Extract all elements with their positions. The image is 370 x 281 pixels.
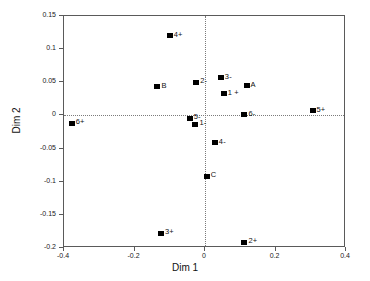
x-axis-tick-label: -0.4 (48, 252, 78, 260)
y-axis-title: Dim 2 (11, 61, 22, 181)
data-point-marker (218, 75, 224, 80)
data-point-marker (310, 108, 316, 113)
y-axis-tick-label: 0.15 (0, 11, 56, 19)
x-axis-tick-mark (134, 247, 135, 251)
data-point-marker (158, 231, 164, 236)
x-axis-tick-label: -0.2 (119, 252, 149, 260)
data-point-marker (154, 84, 160, 89)
data-point-label: C (211, 170, 217, 179)
data-point-label: A (251, 80, 256, 89)
data-point-label: 3+ (165, 227, 174, 236)
data-point-label: 2+ (248, 236, 257, 245)
y-axis-tick-label: -0.15 (0, 210, 56, 218)
data-point-label: 5+ (317, 105, 326, 114)
y-axis-tick-label: 0.05 (0, 77, 56, 85)
data-point-marker (204, 174, 210, 179)
x-axis-tick-mark (204, 247, 205, 251)
data-point-label: 1 + (228, 88, 239, 97)
x-axis-title: Dim 1 (0, 262, 370, 273)
y-axis-tick-label: -0.05 (0, 144, 56, 152)
data-point-marker (69, 121, 75, 126)
x-axis-tick-label: 0 (189, 252, 219, 260)
zero-reference-line-horizontal (64, 115, 344, 116)
y-axis-tick-label: -0.2 (0, 243, 56, 251)
data-point-marker (241, 112, 247, 117)
y-axis-tick-label: 0.1 (0, 44, 56, 52)
data-point-label: B (161, 81, 166, 90)
data-point-label: 2- (200, 76, 207, 85)
data-point-marker (187, 116, 193, 121)
scatter-plot-figure: 4+B2-3-A1 +5+6-5-1-6+4-C3+2+ 0.150.10.05… (0, 0, 370, 281)
x-axis-tick-label: 0.4 (330, 252, 360, 260)
y-axis-tick-mark (59, 48, 63, 49)
data-point-marker (192, 122, 198, 127)
data-point-label: 6- (248, 109, 255, 118)
x-axis-tick-mark (345, 247, 346, 251)
x-axis-tick-mark (275, 247, 276, 251)
y-axis-tick-mark (59, 15, 63, 16)
y-axis-tick-mark (59, 214, 63, 215)
data-point-marker (193, 80, 199, 85)
data-point-marker (167, 33, 173, 38)
data-point-label: 1- (199, 118, 206, 127)
y-axis-tick-label: 0 (0, 110, 56, 118)
y-axis-tick-mark (59, 181, 63, 182)
x-axis-tick-label: 0.2 (260, 252, 290, 260)
y-axis-tick-label: -0.1 (0, 177, 56, 185)
data-point-label: 4- (219, 137, 226, 146)
plot-area: 4+B2-3-A1 +5+6-5-1-6+4-C3+2+ (63, 15, 345, 247)
data-point-label: 4+ (174, 30, 183, 39)
x-axis-tick-mark (63, 247, 64, 251)
y-axis-tick-mark (59, 148, 63, 149)
data-point-label: 3- (225, 72, 232, 81)
data-point-marker (221, 91, 227, 96)
data-point-marker (244, 83, 250, 88)
zero-reference-line-vertical (205, 16, 206, 246)
data-point-label: 6+ (76, 117, 85, 126)
data-point-marker (212, 140, 218, 145)
y-axis-tick-mark (59, 81, 63, 82)
data-point-marker (241, 240, 247, 245)
y-axis-tick-mark (59, 114, 63, 115)
